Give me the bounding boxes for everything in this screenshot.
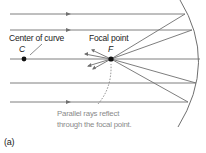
reflected-ray-4 bbox=[111, 59, 196, 83]
diverging-ray-2 bbox=[85, 54, 111, 59]
center-of-curve-point bbox=[22, 57, 27, 62]
arrowhead-icon bbox=[66, 28, 71, 32]
center-of-curve-label: Center of curve bbox=[9, 33, 64, 43]
panel-label: (a) bbox=[4, 137, 14, 147]
concave-mirror-diagram bbox=[0, 0, 206, 153]
arrowhead-icon bbox=[66, 100, 71, 104]
caption-line-2: through the focal point. bbox=[57, 119, 132, 130]
f-label: F bbox=[108, 44, 113, 54]
center-pointer bbox=[30, 44, 42, 55]
caption: Parallel rays reflect through the focal … bbox=[57, 108, 132, 130]
focal-point-label: Focal point bbox=[89, 33, 128, 43]
c-label: C bbox=[19, 44, 25, 54]
arrowhead-icon bbox=[87, 63, 92, 67]
arrowhead-icon bbox=[66, 12, 71, 16]
arrowhead-icon bbox=[84, 52, 88, 56]
caption-line-1: Parallel rays reflect bbox=[57, 108, 132, 119]
caption-pointer bbox=[98, 64, 111, 104]
reflected-ray-5 bbox=[111, 59, 188, 102]
concave-mirror bbox=[178, 0, 199, 127]
focal-point-marker bbox=[108, 56, 113, 61]
